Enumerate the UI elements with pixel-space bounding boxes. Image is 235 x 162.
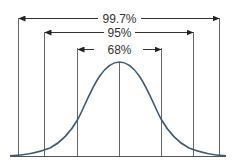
label-68: 68% (107, 43, 131, 57)
label-95: 95% (107, 26, 131, 40)
label-997: 99.7% (102, 12, 136, 26)
normal-curve-diagram: 99.7% 95% 68% (0, 0, 235, 162)
